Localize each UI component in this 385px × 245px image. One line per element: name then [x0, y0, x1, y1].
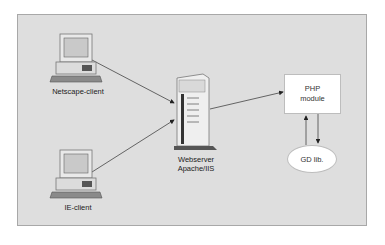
gd-lib-label: GD lib.: [301, 155, 324, 164]
webserver-label-line2: Apache/IIS: [168, 164, 224, 173]
desktop-computer-icon: [50, 34, 102, 82]
netscape-client-label: Netscape-client: [48, 87, 108, 96]
webserver-label-line1: Webserver: [168, 155, 224, 164]
edge-ie-to-server: [92, 120, 174, 172]
edge-server-to-php: [210, 92, 283, 109]
server-tower-icon: [174, 74, 217, 150]
desktop-computer-icon: [50, 150, 102, 198]
php-module-box: PHP module: [284, 74, 341, 114]
php-module-label-line1: PHP: [305, 84, 320, 94]
gd-lib-oval: GD lib.: [287, 145, 337, 173]
php-module-label-line2: module: [300, 94, 325, 104]
webserver-label: Webserver Apache/IIS: [168, 155, 224, 173]
edge-netscape-to-server: [92, 60, 174, 103]
ie-client-label: IE-client: [48, 203, 108, 212]
